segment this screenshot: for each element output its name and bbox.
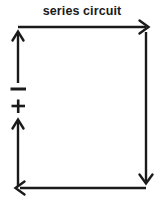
series-circuit-figure: series circuit — [0, 0, 164, 205]
battery-symbol — [11, 89, 27, 113]
lower-left-wire-arrow — [13, 120, 24, 188]
top-wire-arrow — [18, 21, 149, 34]
circuit-diagram-canvas — [0, 0, 164, 205]
right-wire-arrow — [140, 32, 153, 184]
upper-left-wire-arrow — [13, 32, 24, 84]
bottom-wire-arrow — [16, 182, 147, 195]
